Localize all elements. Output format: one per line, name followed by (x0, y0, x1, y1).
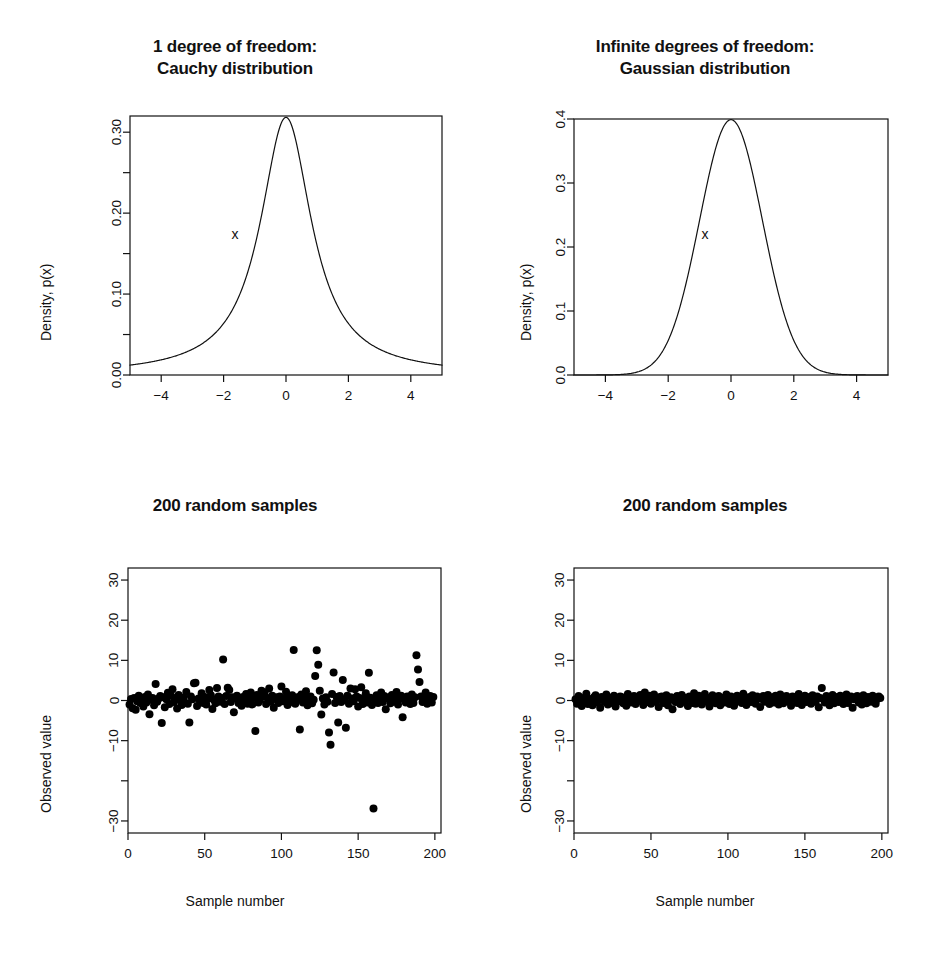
data-point (265, 684, 273, 692)
data-point (317, 711, 325, 719)
data-point (669, 705, 677, 713)
data-point (342, 724, 350, 732)
data-point (334, 719, 342, 727)
y-tick-label: −10 (107, 729, 122, 752)
x-tick-label: −2 (660, 388, 675, 403)
x-tick-label: 150 (794, 846, 817, 861)
x-tick-label: 200 (871, 846, 894, 861)
data-point (412, 651, 420, 659)
data-point (219, 656, 227, 664)
data-point (152, 680, 160, 688)
data-point (314, 661, 322, 669)
y-tick-label: 20 (107, 613, 122, 628)
scatter-points (572, 684, 885, 713)
data-point (416, 678, 424, 686)
data-point (323, 698, 331, 706)
y-tick-label: 10 (553, 653, 568, 668)
x-tick-label: 2 (345, 388, 353, 403)
y-tick-label: 0.30 (109, 119, 124, 145)
data-point (192, 679, 200, 687)
data-point (818, 684, 826, 692)
data-point (330, 668, 338, 676)
panel-cauchy-samples: 200 random samples 050100150200−30−10010… (0, 495, 470, 955)
data-point (251, 727, 259, 735)
y-tick-label: 0 (553, 697, 568, 705)
x-tick-label: 4 (407, 388, 415, 403)
data-point (849, 704, 857, 712)
x-tick-label: 100 (270, 846, 293, 861)
y-axis-label: Observed value (38, 715, 54, 813)
data-point (325, 729, 333, 737)
y-tick-label: 0.1 (553, 302, 568, 321)
x-axis-label: Sample number (470, 893, 940, 909)
data-point (876, 694, 884, 702)
plot-area-gaussian-density: −4−20240.00.10.20.30.4 (470, 36, 940, 456)
y-tick-label: 30 (107, 573, 122, 588)
y-tick-label: −10 (553, 729, 568, 752)
y-tick-label: 0.20 (109, 200, 124, 226)
data-point (185, 719, 193, 727)
data-point (132, 706, 140, 714)
plot-area-gaussian-samples: 050100150200−30−100102030 (470, 495, 940, 955)
y-axis-label: Density, p(x) (38, 263, 54, 341)
x-tick-label: 50 (197, 846, 212, 861)
x-tick-label: 2 (790, 388, 798, 403)
data-point (313, 646, 321, 654)
data-point (158, 719, 166, 727)
x-tick-label: 200 (424, 846, 447, 861)
y-tick-label: 0.3 (553, 174, 568, 193)
y-tick-label: 0.00 (109, 362, 124, 388)
y-tick-label: 30 (553, 573, 568, 588)
x-axis-label: Sample number (0, 893, 470, 909)
data-point (414, 666, 422, 674)
panel-gaussian-samples: 200 random samples 050100150200−30−10010… (470, 495, 940, 955)
y-tick-label: 20 (553, 613, 568, 628)
y-tick-label: 0.0 (553, 366, 568, 385)
scatter-points (126, 646, 438, 813)
x-tick-label: 50 (643, 846, 658, 861)
data-point (213, 684, 221, 692)
x-tick-label: 150 (347, 846, 370, 861)
panel-gaussian-density: Infinite degrees of freedom: Gaussian di… (470, 36, 940, 456)
y-tick-label: −30 (553, 810, 568, 833)
x-tick-label: 0 (124, 846, 132, 861)
data-point (290, 646, 298, 654)
y-axis-label: Observed value (518, 715, 534, 813)
x-tick-label: −2 (216, 388, 231, 403)
x-tick-label: 0 (282, 388, 290, 403)
data-point (230, 708, 238, 716)
data-point (429, 693, 437, 701)
data-point (169, 685, 177, 693)
y-tick-label: 10 (107, 653, 122, 668)
data-point (296, 725, 304, 733)
y-tick-label: −30 (107, 810, 122, 833)
x-tick-label: 100 (717, 846, 740, 861)
y-tick-label: 0 (107, 697, 122, 705)
panel-cauchy-density: 1 degree of freedom: Cauchy distribution… (0, 36, 470, 456)
data-point (339, 676, 347, 684)
data-point (145, 710, 153, 718)
x-axis-label: x (470, 226, 940, 242)
plot-area-cauchy-samples: 050100150200−30−100102030 (0, 495, 470, 955)
x-tick-label: 0 (570, 846, 578, 861)
data-point (327, 741, 335, 749)
data-point (365, 669, 373, 677)
data-point (311, 672, 319, 680)
y-axis-label: Density, p(x) (518, 263, 534, 341)
y-tick-label: 0.4 (553, 109, 568, 128)
x-axis-label: x (0, 226, 470, 242)
plot-area-cauchy-density: −4−20240.000.100.200.30 (0, 36, 470, 456)
x-tick-label: 4 (853, 388, 861, 403)
data-point (369, 805, 377, 813)
x-tick-label: −4 (598, 388, 614, 403)
density-curve (574, 120, 888, 375)
x-tick-label: −4 (153, 388, 169, 403)
data-point (310, 696, 318, 704)
data-point (316, 687, 324, 695)
data-point (399, 713, 407, 721)
figure-canvas: 1 degree of freedom: Cauchy distribution… (0, 0, 940, 970)
x-tick-label: 0 (727, 388, 735, 403)
y-tick-label: 0.10 (109, 281, 124, 307)
data-point (225, 686, 233, 694)
